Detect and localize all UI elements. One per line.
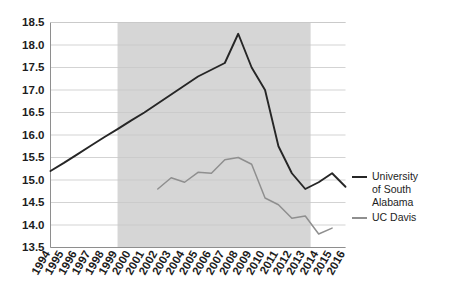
chart-canvas: 13.514.014.515.015.516.016.517.017.518.0… (0, 0, 455, 296)
y-axis-tick-label: 14.0 (22, 219, 44, 231)
legend: Universityof SouthAlabamaUC Davis (352, 170, 419, 223)
y-axis-tick-label: 16.0 (22, 129, 44, 141)
legend-label-ucdavis: UC Davis (372, 211, 416, 223)
y-axis-tick-label: 18.0 (22, 39, 44, 51)
line-chart: 13.514.014.515.015.516.016.517.017.518.0… (0, 0, 455, 296)
y-axis-tick-label: 18.5 (22, 16, 45, 28)
y-axis-tick-label: 14.5 (22, 196, 45, 208)
x-axis-tick-labels: 1994199519961997199819992000200120022003… (29, 248, 347, 277)
legend-label-usa: Alabama (372, 196, 414, 208)
legend-label-usa: University (372, 170, 419, 182)
y-axis-tick-label: 16.5 (22, 106, 45, 118)
y-axis-tick-label: 15.0 (22, 174, 44, 186)
legend-label-usa: of South (372, 183, 411, 195)
y-axis-tick-label: 17.0 (22, 84, 44, 96)
y-axis-tick-label: 17.5 (22, 61, 45, 73)
y-axis-tick-label: 15.5 (22, 151, 45, 163)
y-axis-tick-labels: 13.514.014.515.015.516.016.517.017.518.0… (22, 16, 45, 253)
